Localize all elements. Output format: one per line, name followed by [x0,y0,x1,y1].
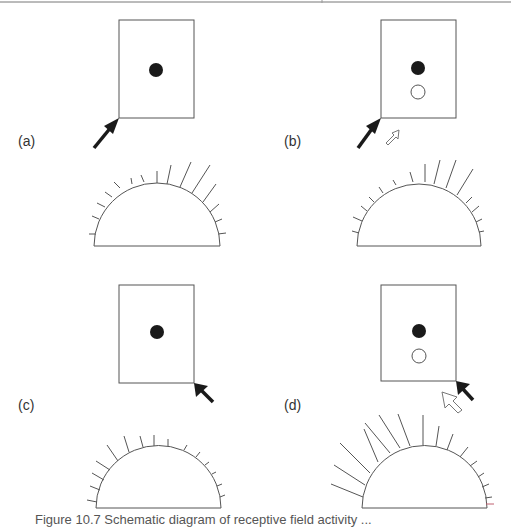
filled-dot [150,325,164,339]
panel-b: (b) [284,20,484,246]
panel-label: (a) [18,133,35,149]
panel-c: (c) [18,285,225,508]
figure-caption: Figure 10.7 Schematic diagram of recepti… [35,512,372,527]
arrow-icon [194,383,213,402]
panel-label: (d) [284,397,301,413]
filled-dot [412,324,426,338]
response-arc [89,162,226,246]
response-arc [352,160,484,246]
panel-label: (b) [284,133,301,149]
response-arc [87,435,225,508]
panel-label: (c) [18,397,34,413]
open-dot [411,85,425,99]
outlined-arrow-icon [442,392,462,413]
open-dot [412,349,426,363]
arrow-icon [358,118,381,148]
filled-dot [411,61,425,75]
response-arc [331,414,494,508]
panel-d: (d) [284,285,494,508]
filled-dot [149,63,163,77]
arrow-icon [456,381,473,400]
panel-a: (a) [18,20,226,246]
arrow-icon [94,118,119,148]
outlined-arrow-icon [386,130,399,145]
